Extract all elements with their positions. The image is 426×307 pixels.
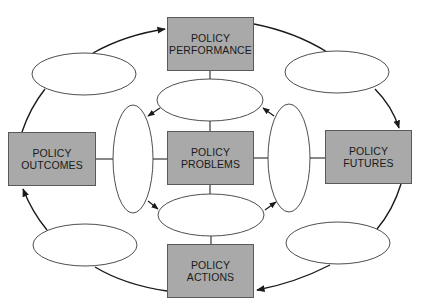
node-policy-problems: POLICY PROBLEMS (167, 131, 254, 185)
node-policy-performance: POLICY PERFORMANCE (167, 17, 254, 71)
arc-futures-to-bottomright (377, 184, 401, 229)
ellipse-outer-bottom-right (286, 222, 390, 264)
arc-outcomes-to-topleft (22, 89, 45, 132)
ellipse-inner-left (113, 105, 153, 213)
arc-actions-to-bottomleft (95, 267, 167, 291)
arrow-topleft-to-performance (93, 29, 165, 53)
node-label-line2: ACTIONS (187, 271, 234, 283)
ellipse-outer-top-right (285, 51, 389, 93)
ellipse-outer-bottom-left (33, 224, 137, 266)
ellipse-inner-bottom (158, 194, 264, 236)
arrow-topright-to-futures (375, 89, 399, 128)
node-policy-futures: POLICY FUTURES (325, 130, 412, 184)
node-label-line1: POLICY (32, 147, 71, 159)
arrow-bottomright-to-actions (257, 265, 330, 290)
node-policy-actions: POLICY ACTIONS (167, 244, 254, 298)
ellipse-outer-top-left (32, 53, 136, 95)
node-policy-outcomes: POLICY OUTCOMES (8, 132, 96, 186)
node-label-line1: POLICY (349, 145, 388, 157)
arrow-bottomleft-to-outcomes (23, 189, 47, 230)
node-label-line2: PERFORMANCE (169, 44, 252, 56)
node-label-line1: POLICY (191, 32, 230, 44)
node-label-line2: OUTCOMES (21, 159, 82, 171)
node-label-line2: FUTURES (343, 157, 393, 169)
node-label-line2: PROBLEMS (181, 158, 240, 170)
ellipse-inner-top (157, 79, 263, 121)
arc-performance-to-topright (254, 24, 327, 52)
node-label-line1: POLICY (191, 259, 230, 271)
ellipse-inner-right (268, 104, 310, 212)
node-label-line1: POLICY (191, 146, 230, 158)
